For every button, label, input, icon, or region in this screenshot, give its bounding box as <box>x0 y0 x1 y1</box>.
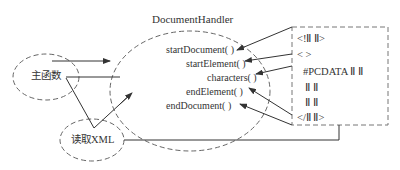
xml-line-doctype: <!Ⅱ Ⅱ> <box>297 34 325 45</box>
main-function-label: 主函数 <box>31 71 61 82</box>
diagram-title: DocumentHandler <box>152 14 233 25</box>
xml-line-close-tag: </Ⅱ Ⅱ> <box>297 113 324 124</box>
diagram-lines <box>0 0 400 170</box>
method-characters: characters( ) <box>207 73 257 83</box>
xml-line-open-tag: < > <box>297 50 311 61</box>
method-start-element: startElement( ) <box>186 59 246 69</box>
read-xml-label: 读取XML <box>71 135 114 146</box>
method-end-element: endElement( ) <box>186 87 243 97</box>
xml-line-content-1: Ⅱ Ⅱ <box>305 83 318 94</box>
diagram-canvas: DocumentHandler startDocument( ) startEl… <box>0 0 400 170</box>
method-start-document: startDocument( ) <box>166 45 234 55</box>
xml-line-content-2: Ⅱ Ⅱ <box>305 98 318 109</box>
method-end-document: endDocument( ) <box>166 101 231 111</box>
xml-line-pcdata: #PCDATA Ⅱ Ⅱ <box>303 67 363 78</box>
